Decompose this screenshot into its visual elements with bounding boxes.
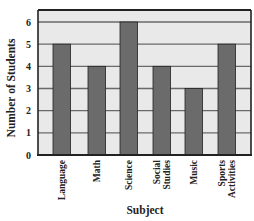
y-axis-ticks: 0123456 (26, 17, 31, 161)
svg-text:Math: Math (92, 159, 102, 182)
x-tick-label: SportsActivities (217, 160, 237, 198)
svg-text:Studies: Studies (162, 160, 172, 190)
bar-language (53, 44, 71, 155)
svg-text:Language: Language (57, 160, 67, 200)
x-axis-title: Subject (126, 204, 163, 217)
y-tick-label: 4 (26, 61, 31, 72)
x-tick-label: SocialStudies (152, 160, 172, 190)
svg-text:Activities: Activities (227, 160, 237, 198)
bar-chart: 0123456 LanguageMathScienceSocialStudies… (0, 0, 254, 221)
x-axis-category-labels: LanguageMathScienceSocialStudiesMusicSpo… (57, 159, 237, 200)
bar-music (185, 89, 203, 156)
y-tick-label: 2 (26, 105, 31, 116)
bar-social-studies (153, 66, 171, 155)
x-tick-label: Music (189, 160, 199, 185)
bar-science (120, 22, 138, 155)
y-tick-label: 0 (26, 150, 31, 161)
y-tick-label: 1 (26, 127, 31, 138)
x-tick-label: Math (92, 159, 102, 182)
svg-text:Science: Science (124, 160, 134, 190)
bar-sports-activities (218, 44, 236, 155)
y-tick-label: 5 (26, 39, 31, 50)
bar-math (88, 66, 106, 155)
svg-text:Music: Music (189, 160, 199, 185)
svg-text:Sports: Sports (217, 160, 227, 187)
y-axis-title: Number of Students (5, 38, 17, 137)
y-tick-label: 6 (26, 17, 31, 28)
x-tick-label: Science (124, 160, 134, 190)
y-tick-label: 3 (26, 83, 31, 94)
svg-text:Social: Social (152, 160, 162, 185)
x-tick-label: Language (57, 160, 67, 200)
